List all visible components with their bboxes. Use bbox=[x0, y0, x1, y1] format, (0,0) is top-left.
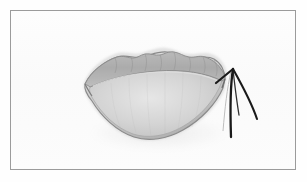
image-frame-border bbox=[10, 10, 296, 170]
image-canvas: Grayscale photograph of a crimped dumpli… bbox=[0, 0, 307, 182]
dumpling-illustration bbox=[11, 11, 296, 170]
